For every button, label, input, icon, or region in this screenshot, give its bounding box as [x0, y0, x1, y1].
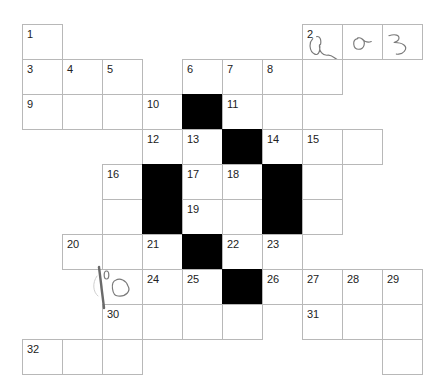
grid-cell[interactable]: 15 [302, 129, 343, 165]
clue-number: 20 [67, 239, 79, 250]
grid-cell[interactable]: 31 [302, 304, 343, 340]
clue-number: 8 [267, 64, 273, 75]
grid-cell[interactable]: 11 [222, 94, 263, 130]
grid-cell[interactable]: 13 [182, 129, 223, 165]
grid-cell[interactable] [302, 164, 343, 200]
clue-number: 16 [107, 169, 119, 180]
grid-cell[interactable]: 27 [302, 269, 343, 305]
handwritten-entry [383, 25, 422, 59]
grid-cell[interactable] [222, 199, 263, 235]
clue-number: 6 [187, 64, 193, 75]
grid-cell[interactable]: 3 [22, 59, 63, 95]
black-cell [142, 164, 183, 200]
grid-cell[interactable] [102, 94, 143, 130]
clue-number: 22 [227, 239, 239, 250]
clue-number: 32 [27, 344, 39, 355]
grid-cell[interactable]: 20 [62, 234, 103, 270]
black-cell [262, 164, 303, 200]
grid-cell[interactable]: 23 [262, 234, 303, 270]
clue-number: 21 [147, 239, 159, 250]
clue-number: 7 [227, 64, 233, 75]
grid-cell[interactable]: 29 [382, 269, 423, 305]
grid-cell[interactable]: 19 [182, 199, 223, 235]
grid-cell[interactable] [62, 94, 103, 130]
crossword-grid: 1234567891011121314151617181920212223242… [0, 0, 447, 392]
grid-cell[interactable]: 28 [342, 269, 383, 305]
grid-cell[interactable] [302, 59, 343, 95]
grid-cell[interactable] [342, 304, 383, 340]
grid-cell[interactable] [182, 304, 223, 340]
grid-cell[interactable] [382, 339, 423, 375]
grid-cell[interactable]: 24 [142, 269, 183, 305]
handwritten-entry [343, 25, 382, 59]
clue-number: 26 [267, 274, 279, 285]
clue-number: 25 [187, 274, 199, 285]
grid-cell[interactable]: 30 [102, 304, 143, 340]
clue-number: 28 [347, 274, 359, 285]
clue-number: 4 [67, 64, 73, 75]
grid-cell[interactable] [142, 304, 183, 340]
clue-number: 30 [107, 309, 119, 320]
grid-cell[interactable] [102, 339, 143, 375]
clue-number: 3 [27, 64, 33, 75]
grid-cell[interactable] [382, 24, 423, 60]
black-cell [182, 234, 223, 270]
black-cell [262, 199, 303, 235]
clue-number: 18 [227, 169, 239, 180]
black-cell [182, 94, 223, 130]
grid-cell[interactable]: 32 [22, 339, 63, 375]
grid-cell[interactable]: 6 [182, 59, 223, 95]
clue-number: 14 [267, 134, 279, 145]
grid-cell[interactable] [222, 304, 263, 340]
grid-cell[interactable]: 8 [262, 59, 303, 95]
clue-number: 1 [27, 29, 33, 40]
clue-number: 27 [307, 274, 319, 285]
grid-cell[interactable]: 16 [102, 164, 143, 200]
grid-cell[interactable] [62, 339, 103, 375]
clue-number: 9 [27, 99, 33, 110]
clue-number: 29 [387, 274, 399, 285]
black-cell [142, 199, 183, 235]
grid-cell[interactable]: 1 [22, 24, 63, 60]
grid-cell[interactable]: 22 [222, 234, 263, 270]
clue-number: 10 [147, 99, 159, 110]
grid-cell[interactable]: 4 [62, 59, 103, 95]
grid-cell[interactable] [342, 129, 383, 165]
clue-number: 19 [187, 204, 199, 215]
grid-cell[interactable]: 21 [142, 234, 183, 270]
clue-number: 24 [147, 274, 159, 285]
grid-cell[interactable] [302, 199, 343, 235]
grid-cell[interactable]: 9 [22, 94, 63, 130]
grid-cell[interactable]: 7 [222, 59, 263, 95]
grid-cell[interactable] [102, 199, 143, 235]
clue-number: 11 [227, 99, 238, 110]
grid-cell[interactable]: 10 [142, 94, 183, 130]
clue-number: 12 [147, 134, 159, 145]
grid-cell[interactable]: 2 [302, 24, 343, 60]
grid-cell[interactable]: 14 [262, 129, 303, 165]
grid-cell[interactable]: 26 [262, 269, 303, 305]
clue-number: 13 [187, 134, 199, 145]
clue-number: 23 [267, 239, 279, 250]
handwritten-entry [303, 25, 342, 59]
grid-cell[interactable]: 25 [182, 269, 223, 305]
clue-number: 5 [107, 64, 113, 75]
grid-cell[interactable] [342, 24, 383, 60]
clue-number: 31 [307, 309, 319, 320]
clue-number: 15 [307, 134, 319, 145]
grid-cell[interactable] [382, 304, 423, 340]
black-cell [222, 269, 263, 305]
grid-cell[interactable] [102, 234, 143, 270]
grid-cell[interactable]: 12 [142, 129, 183, 165]
black-cell [222, 129, 263, 165]
grid-cell[interactable]: 5 [102, 59, 143, 95]
grid-cell[interactable]: 18 [222, 164, 263, 200]
clue-number: 17 [187, 169, 199, 180]
grid-cell[interactable] [262, 94, 303, 130]
grid-cell[interactable]: 17 [182, 164, 223, 200]
